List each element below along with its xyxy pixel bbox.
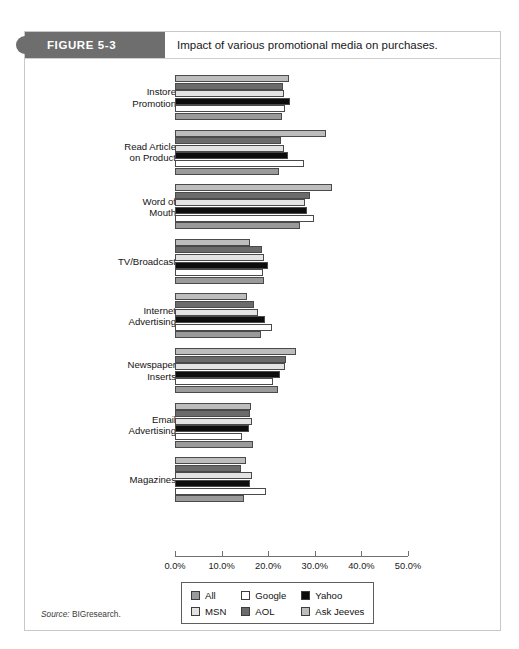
- category-group: Instore Promotion: [25, 75, 500, 121]
- bar: [175, 113, 282, 120]
- bar: [175, 309, 258, 316]
- x-axis-tick: [268, 551, 269, 556]
- category-group: Magazines: [25, 457, 500, 503]
- legend-item: Ask Jeeves: [301, 604, 364, 618]
- bar: [175, 90, 284, 97]
- bar: [175, 184, 332, 191]
- bar: [175, 386, 278, 393]
- x-axis-tick: [315, 551, 316, 556]
- bar: [175, 293, 247, 300]
- category-group: Read Article on Product: [25, 130, 500, 176]
- bar: [175, 418, 252, 425]
- bar: [175, 363, 285, 370]
- bar: [175, 480, 250, 487]
- chart-legend: AllGoogleYahooMSNAOLAsk Jeeves: [181, 582, 374, 624]
- legend-swatch: [191, 591, 200, 600]
- x-axis-tick-label: 0.0%: [164, 561, 185, 571]
- bar-chart: Instore PromotionRead Article on Product…: [25, 59, 500, 630]
- source-label: Source:: [41, 609, 70, 619]
- legend-label: AOL: [255, 606, 274, 617]
- category-label: Magazines: [56, 474, 176, 485]
- bar: [175, 262, 268, 269]
- x-axis-tick-label: 30.0%: [302, 561, 328, 571]
- source-text: BIGresearch.: [72, 609, 121, 619]
- legend-swatch: [191, 607, 200, 616]
- x-axis-tick: [222, 551, 223, 556]
- bar: [175, 403, 251, 410]
- bar: [175, 465, 241, 472]
- x-axis-tick-label: 40.0%: [348, 561, 374, 571]
- source-note: Source: BIGresearch.: [41, 609, 121, 619]
- category-group: Internet Advertising: [25, 293, 500, 339]
- legend-label: Ask Jeeves: [315, 606, 364, 617]
- legend-item: MSN: [191, 604, 226, 618]
- bar: [175, 145, 284, 152]
- legend-item: AOL: [241, 604, 286, 618]
- bar: [175, 348, 296, 355]
- legend-label: Yahoo: [315, 590, 342, 601]
- bar: [175, 98, 290, 105]
- figure-header: FIGURE 5-3 Impact of various promotional…: [25, 32, 500, 59]
- category-label: Word of Mouth: [56, 196, 176, 219]
- bar: [175, 207, 307, 214]
- bar: [175, 192, 310, 199]
- legend-item: Yahoo: [301, 588, 364, 602]
- bar: [175, 269, 263, 276]
- bar: [175, 441, 253, 448]
- legend-label: All: [205, 590, 216, 601]
- bar: [175, 168, 279, 175]
- legend-label: MSN: [205, 606, 226, 617]
- bar: [175, 105, 285, 112]
- bar: [175, 331, 261, 338]
- figure-tag-bullet-icon: [16, 36, 34, 54]
- bar: [175, 152, 288, 159]
- legend-label: Google: [255, 590, 286, 601]
- bar: [175, 137, 281, 144]
- category-label: Email Advertising: [56, 414, 176, 437]
- bar: [175, 495, 244, 502]
- bar: [175, 160, 304, 167]
- bar: [175, 301, 254, 308]
- x-axis-line: [175, 556, 408, 557]
- bar: [175, 457, 246, 464]
- category-group: Word of Mouth: [25, 184, 500, 230]
- x-axis-tick: [175, 551, 176, 556]
- bar: [175, 215, 314, 222]
- bar: [175, 378, 273, 385]
- bar: [175, 425, 249, 432]
- bar: [175, 130, 326, 137]
- x-axis-tick-label: 20.0%: [255, 561, 281, 571]
- x-axis-tick: [361, 551, 362, 556]
- category-label: Read Article on Product: [56, 141, 176, 164]
- legend-item: All: [191, 588, 226, 602]
- figure-tag-label: FIGURE 5-3: [47, 39, 116, 51]
- legend-swatch: [301, 607, 310, 616]
- bar: [175, 488, 266, 495]
- category-group: Newspaper Inserts: [25, 348, 500, 394]
- bar: [175, 316, 265, 323]
- category-label: Internet Advertising: [56, 305, 176, 328]
- bar: [175, 371, 280, 378]
- legend-swatch: [241, 607, 250, 616]
- bar: [175, 222, 300, 229]
- category-label: Instore Promotion: [56, 86, 176, 109]
- figure-tag: FIGURE 5-3: [25, 32, 165, 58]
- legend-item: Google: [241, 588, 286, 602]
- category-label: TV/Broadcast: [56, 256, 176, 267]
- figure-caption: Impact of various promotional media on p…: [177, 32, 438, 58]
- x-axis-tick: [408, 551, 409, 556]
- bar: [175, 324, 272, 331]
- bar: [175, 356, 286, 363]
- bar: [175, 410, 250, 417]
- legend-swatch: [301, 591, 310, 600]
- bar: [175, 239, 250, 246]
- legend-swatch: [241, 591, 250, 600]
- category-group: TV/Broadcast: [25, 239, 500, 285]
- bar: [175, 199, 305, 206]
- bar: [175, 433, 242, 440]
- bar: [175, 83, 283, 90]
- x-axis-tick-label: 50.0%: [395, 561, 421, 571]
- bar: [175, 246, 262, 253]
- category-group: Email Advertising: [25, 403, 500, 449]
- x-axis-tick-label: 10.0%: [208, 561, 234, 571]
